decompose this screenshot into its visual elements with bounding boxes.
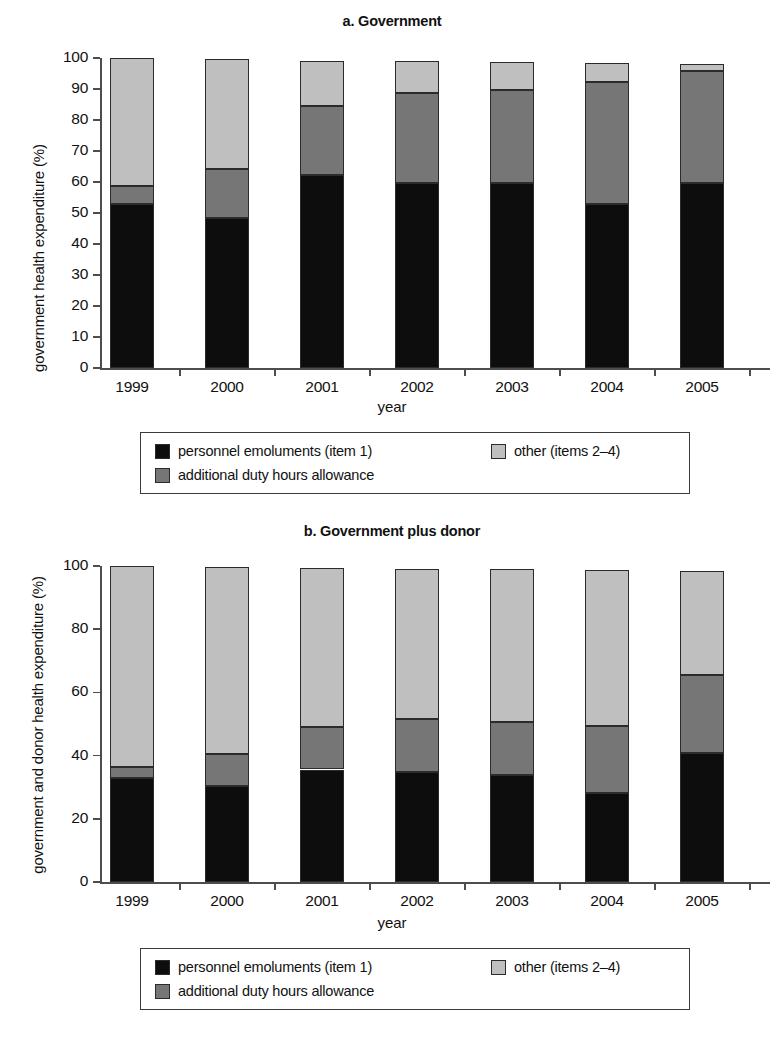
- bar-segment: [300, 106, 344, 175]
- x-tick: [654, 883, 656, 890]
- bar-segment: [205, 169, 249, 219]
- y-axis-line: [100, 566, 102, 882]
- stacked-bar: [395, 58, 439, 368]
- stacked-bar: [300, 58, 344, 368]
- x-tick-label: 2002: [377, 892, 457, 910]
- bar-segment: [395, 93, 439, 183]
- x-tick-label: 2005: [662, 892, 742, 910]
- y-tick-label: 0: [38, 872, 88, 890]
- x-axis-line: [100, 368, 770, 370]
- bar-segment: [395, 569, 439, 720]
- x-tick: [369, 883, 371, 890]
- y-tick-label: 100: [38, 556, 88, 574]
- bar-segment: [585, 793, 629, 882]
- bar-segment: [680, 753, 724, 882]
- y-tick-label: 80: [38, 110, 88, 128]
- bar-segment: [585, 570, 629, 726]
- y-tick-label: 20: [38, 296, 88, 314]
- legend-item[interactable]: other (items 2–4): [491, 443, 620, 459]
- bar-segment: [680, 71, 724, 183]
- legend-item-label: personnel emoluments (item 1): [178, 443, 372, 459]
- stacked-bar: [205, 58, 249, 368]
- y-tick: [93, 692, 100, 694]
- stacked-bar: [395, 566, 439, 882]
- legend-item[interactable]: additional duty hours allowance: [155, 983, 374, 999]
- chart-a-title: a. Government: [0, 13, 784, 29]
- x-tick: [749, 883, 751, 890]
- bar-segment: [110, 204, 154, 368]
- legend-item-label: additional duty hours allowance: [178, 983, 374, 999]
- bar-segment: [490, 62, 534, 90]
- bar-segment: [110, 767, 154, 778]
- y-tick: [93, 119, 100, 121]
- legend-item-label: other (items 2–4): [514, 959, 620, 975]
- y-tick: [93, 565, 100, 567]
- y-tick: [93, 367, 100, 369]
- bar-segment: [300, 770, 344, 882]
- bar-segment: [395, 183, 439, 368]
- chart-b-plot-area: 0204060801001999200020012002200320042005: [100, 566, 770, 882]
- legend-item-label: personnel emoluments (item 1): [178, 959, 372, 975]
- bar-segment: [490, 183, 534, 368]
- y-tick-label: 50: [38, 203, 88, 221]
- y-tick-label: 30: [38, 265, 88, 283]
- stacked-bar: [110, 58, 154, 368]
- y-tick-label: 100: [38, 48, 88, 66]
- legend-item-label: other (items 2–4): [514, 443, 620, 459]
- x-tick: [464, 883, 466, 890]
- legend-item[interactable]: additional duty hours allowance: [155, 467, 374, 483]
- x-tick: [274, 883, 276, 890]
- y-tick: [93, 305, 100, 307]
- chart-a-legend: personnel emoluments (item 1)other (item…: [140, 432, 690, 494]
- legend-item[interactable]: other (items 2–4): [491, 959, 620, 975]
- legend-item[interactable]: personnel emoluments (item 1): [155, 443, 372, 459]
- chart-panel-b: b. Government plus donor government and …: [0, 510, 784, 1039]
- y-tick: [93, 755, 100, 757]
- black-swatch-icon: [155, 444, 170, 459]
- stacked-bar: [585, 58, 629, 368]
- bar-segment: [110, 186, 154, 204]
- y-tick-label: 40: [38, 234, 88, 252]
- bar-segment: [490, 775, 534, 882]
- x-tick-label: 2003: [472, 892, 552, 910]
- stacked-bar: [300, 566, 344, 882]
- y-tick-label: 20: [38, 809, 88, 827]
- y-axis-line: [100, 58, 102, 368]
- bar-segment: [205, 567, 249, 754]
- x-tick: [369, 369, 371, 376]
- y-tick: [93, 181, 100, 183]
- x-tick: [559, 369, 561, 376]
- y-tick-label: 0: [38, 358, 88, 376]
- chart-b-legend: personnel emoluments (item 1)other (item…: [140, 948, 690, 1010]
- bar-segment: [300, 568, 344, 727]
- bar-segment: [300, 61, 344, 106]
- bar-segment: [585, 82, 629, 204]
- figure-root: a. Government government health expendit…: [0, 0, 784, 1039]
- bar-segment: [585, 204, 629, 368]
- x-tick-label: 2003: [472, 378, 552, 396]
- stacked-bar: [490, 58, 534, 368]
- y-tick-label: 90: [38, 79, 88, 97]
- x-axis-line: [100, 882, 770, 884]
- black-swatch-icon: [155, 960, 170, 975]
- legend-item[interactable]: personnel emoluments (item 1): [155, 959, 372, 975]
- bar-segment: [300, 727, 344, 769]
- bar-segment: [680, 675, 724, 753]
- bar-segment: [585, 726, 629, 793]
- light-gray-swatch-icon: [491, 444, 506, 459]
- bar-segment: [680, 571, 724, 676]
- y-tick: [93, 243, 100, 245]
- x-tick-label: 2002: [377, 378, 457, 396]
- x-tick-label: 2004: [567, 892, 647, 910]
- bar-segment: [490, 722, 534, 775]
- y-tick: [93, 336, 100, 338]
- legend-item-label: additional duty hours allowance: [178, 467, 374, 483]
- y-tick: [93, 881, 100, 883]
- x-tick-label: 2004: [567, 378, 647, 396]
- y-tick: [93, 628, 100, 630]
- x-tick: [749, 369, 751, 376]
- y-tick-label: 70: [38, 141, 88, 159]
- bar-segment: [395, 61, 439, 94]
- y-tick-label: 60: [38, 682, 88, 700]
- x-tick-label: 2005: [662, 378, 742, 396]
